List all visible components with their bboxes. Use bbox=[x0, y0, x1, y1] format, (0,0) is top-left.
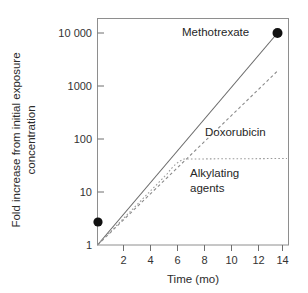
x-axis-ticks bbox=[124, 245, 283, 251]
chart-figure: 10 000 1000 100 10 1 2 4 6 8 10 12 14 bbox=[0, 0, 308, 293]
y-axis-title-line1: Fold increase from initial exposure bbox=[10, 52, 22, 227]
chart-canvas: 10 000 1000 100 10 1 2 4 6 8 10 12 14 bbox=[0, 0, 308, 293]
y-tick-label-100: 100 bbox=[74, 133, 92, 145]
series-label-methotrexate: Methotrexate bbox=[182, 26, 249, 38]
y-axis-title: Fold increase from initial exposure conc… bbox=[10, 52, 37, 227]
x-axis-title: Time (mo) bbox=[167, 273, 219, 285]
data-point-methotrexate-max bbox=[273, 28, 283, 38]
y-tick-label-1: 1 bbox=[86, 239, 92, 251]
x-tick-label-6: 6 bbox=[174, 254, 180, 266]
y-tick-label-1000: 1000 bbox=[68, 80, 92, 92]
x-axis-tick-labels: 2 4 6 8 10 12 14 bbox=[120, 254, 288, 266]
y-tick-label-10000: 10 000 bbox=[58, 27, 92, 39]
data-point-initial bbox=[93, 217, 102, 226]
series-line-methotrexate bbox=[98, 33, 278, 245]
x-tick-label-8: 8 bbox=[201, 254, 207, 266]
series-label-doxorubicin: Doxorubicin bbox=[205, 126, 266, 138]
x-tick-label-4: 4 bbox=[147, 254, 153, 266]
series-label-alkylating-agents-line2: agents bbox=[190, 182, 225, 194]
x-tick-label-14: 14 bbox=[276, 254, 288, 266]
x-tick-label-10: 10 bbox=[225, 254, 237, 266]
x-tick-label-12: 12 bbox=[252, 254, 264, 266]
y-tick-label-10: 10 bbox=[80, 186, 92, 198]
series-label-alkylating-agents-line1: Alkylating bbox=[190, 167, 239, 179]
x-tick-label-2: 2 bbox=[120, 254, 126, 266]
series-line-doxorubicin bbox=[98, 71, 278, 245]
y-axis-tick-labels: 10 000 1000 100 10 1 bbox=[58, 27, 92, 251]
y-axis-ticks bbox=[98, 33, 105, 192]
y-axis-title-line2: concentration bbox=[25, 105, 37, 174]
